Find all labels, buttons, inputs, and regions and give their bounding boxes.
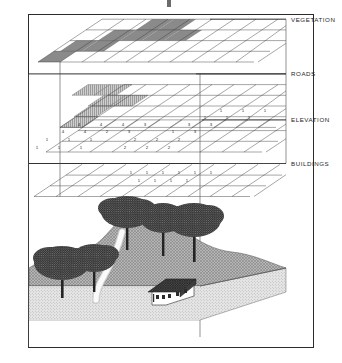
layer-label-buildings: BUILDINGS — [291, 160, 329, 167]
layer-label-vegetation: VEGETATION — [291, 16, 335, 23]
layer-label-roads: ROADS — [291, 70, 316, 77]
layer-label-elevation: ELEVATION — [291, 116, 330, 123]
figure-canvas: 111 111 444 333 442 313 111 222 111 222 — [0, 0, 342, 363]
terrain-block — [0, 0, 342, 363]
